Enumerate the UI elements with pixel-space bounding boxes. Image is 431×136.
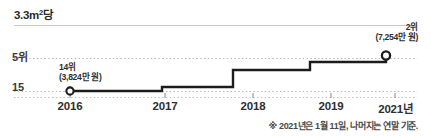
x-axis-tick-label-2019: 2019	[319, 100, 344, 112]
x-axis-tick-label-2021: 2021년	[378, 100, 414, 116]
data-point-marker-2021	[382, 51, 390, 59]
x-axis-tick-label-2016: 2016	[58, 100, 83, 112]
annotation-last-rank: 2위	[375, 22, 418, 32]
step-line-series	[70, 57, 386, 91]
annotation-last-value: (7,254만 원)	[375, 32, 418, 42]
annotation-first-point: 14위 (3,824만 원)	[59, 62, 102, 83]
y-axis-tick-label-rank-5: 5위	[12, 48, 28, 64]
annotation-last-point: 2위 (7,254만 원)	[375, 22, 418, 43]
annotation-first-value: (3,824만 원)	[59, 72, 102, 82]
y-axis-tick-label-rank-15: 15	[12, 81, 24, 93]
x-axis-tick-label-2018: 2018	[241, 100, 266, 112]
x-axis-tick-label-2017: 2017	[153, 100, 178, 112]
x-tick-marks	[70, 93, 395, 98]
data-point-marker-2016	[66, 87, 73, 94]
chart-figure: 3.3m2당 5위 15	[0, 0, 431, 136]
annotation-first-rank: 14위	[59, 62, 102, 72]
chart-footnote: ※ 2021년은 1월 11일, 나머지는 연말 기준.	[269, 119, 419, 132]
